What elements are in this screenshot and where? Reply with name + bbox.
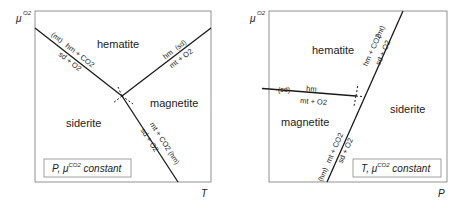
left-phase-siderite: siderite <box>66 117 101 129</box>
right-x-axis-label: P <box>438 188 445 199</box>
right-reaction-hm-absent: (hm) mt + CO2 sd + O2 <box>316 131 356 187</box>
left-constant-text: P, μCO2 constant <box>52 162 123 174</box>
left-phase-magnetite: magnetite <box>150 97 198 109</box>
right-reaction-sd-absent: (sd) hm mt + O2 <box>278 84 327 107</box>
left-phase-hematite: hematite <box>97 38 139 50</box>
right-reaction-mt-absent: hm + CO2 (mt) sd + O2 <box>361 24 397 72</box>
right-y-axis-label: μ <box>249 13 256 24</box>
left-y-axis-sup: O2 <box>23 10 32 16</box>
right-phase-hematite: hematite <box>312 44 354 56</box>
left-x-axis-label: T <box>201 188 208 199</box>
phase-diagrams: μ O2 T hematite magnetite siderite (mt) … <box>0 0 452 210</box>
left-y-axis-label: μ <box>15 13 22 24</box>
svg-text:(sd): (sd) <box>278 86 290 94</box>
right-panel: μ O2 P hematite magnetite siderite hm + … <box>249 10 447 199</box>
left-reaction-mt-absent: (mt) hm + CO2 sd + O2 <box>43 30 97 78</box>
svg-text:(mt): (mt) <box>49 31 64 45</box>
svg-text:(mt): (mt) <box>374 25 386 40</box>
right-y-axis-sup: O2 <box>257 10 266 16</box>
left-panel: μ O2 T hematite magnetite siderite (mt) … <box>15 10 211 199</box>
svg-text:(hm): (hm) <box>166 150 181 166</box>
right-constant-text: T, μCO2 constant <box>361 162 431 174</box>
right-phase-magnetite: magnetite <box>281 116 329 128</box>
svg-text:hm: hm <box>306 84 317 94</box>
right-phase-siderite: siderite <box>390 103 425 115</box>
svg-text:mt + O2: mt + O2 <box>300 96 328 107</box>
left-reaction-hm-absent: mt + CO2 sd + O2 (hm) <box>139 121 182 172</box>
right-frame <box>269 11 447 182</box>
